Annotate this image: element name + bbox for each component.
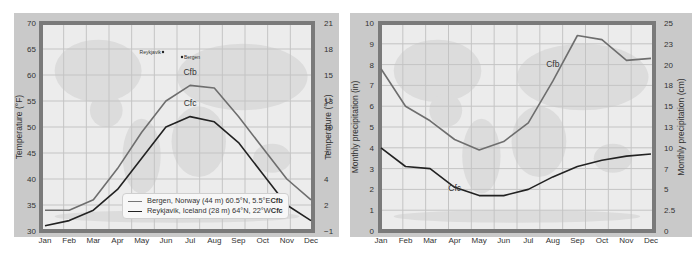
precip-ytick-right: 10 — [664, 144, 673, 153]
precip-ylabel-left: Monthly precipitation (in) — [350, 81, 360, 174]
temp-ytick-left: 45 — [27, 149, 36, 158]
precip-ytick-right: 2.5 — [664, 206, 676, 215]
precip-map-landmass — [462, 119, 500, 194]
temp-ytick-right: 21 — [324, 19, 333, 28]
climate-figure: 303540455055606570−12471013151821JanFebM… — [0, 0, 694, 263]
legend-item-bergen: Bergen, Norway (44 m) 60.5°N, 5.5°E Cfb — [128, 196, 283, 206]
precip-map-landmass — [512, 106, 567, 177]
temp-xtick: Jun — [159, 236, 172, 245]
precip-ytick-left: 10 — [365, 19, 374, 28]
temp-map-landmass — [90, 94, 123, 127]
reykjavik-marker — [162, 51, 164, 53]
precip-ytick-left: 5 — [370, 123, 375, 132]
temp-ytick-right: −1 — [324, 227, 334, 236]
temp-xtick: May — [134, 236, 149, 245]
precip-ytick-left: 8 — [370, 61, 375, 70]
temp-ytick-left: 35 — [27, 201, 36, 210]
temp-xtick: Jan — [39, 236, 52, 245]
temp-xtick: Aug — [207, 236, 221, 245]
precip-ytick-left: 1 — [370, 206, 375, 215]
precip-map-landmass — [517, 44, 649, 111]
precip-xtick: Jan — [375, 236, 388, 245]
temp-ylabel-left: Temperature (°F) — [14, 95, 24, 160]
precip-xtick: Feb — [399, 236, 413, 245]
precip-ytick-right: 23 — [664, 40, 673, 49]
precip-ytick-right: 25 — [664, 19, 673, 28]
precip-ytick-left: 6 — [370, 102, 375, 111]
precip-xtick: Mar — [423, 236, 437, 245]
precip-ylabel-right: Monthly precipitation (cm) — [676, 78, 686, 175]
temp-ytick-right: 4 — [324, 175, 329, 184]
temp-xtick: Sep — [231, 236, 246, 245]
temp-xtick: Nov — [280, 236, 294, 245]
temp-ytick-left: 30 — [27, 227, 36, 236]
precip-ytick-right: 20 — [664, 61, 673, 70]
precip-ytick-right: 7 — [664, 165, 669, 174]
precip-ytick-left: 7 — [370, 81, 375, 90]
temp-ytick-right: 15 — [324, 71, 333, 80]
precip-xtick: Oct — [596, 236, 609, 245]
precip-xtick: Sep — [570, 236, 585, 245]
precip-ytick-right: 18 — [664, 81, 673, 90]
precip-map-landmass — [394, 40, 482, 102]
precip-annotation-cfc: Cfc — [448, 183, 462, 193]
temp-ytick-left: 70 — [27, 19, 36, 28]
legend-item-reykjavik: Reykjavik, Iceland (28 m) 64°N, 22°W Cfc — [128, 206, 283, 216]
temp-ylabel-right: Temperature (°C) — [323, 94, 333, 159]
temp-xtick: Dec — [304, 236, 318, 245]
legend-code-reykjavik: Cfc — [271, 206, 283, 216]
precip-xtick: Jul — [523, 236, 533, 245]
temp-ytick-right: 18 — [324, 45, 333, 54]
legend-label-reykjavik: Reykjavik, Iceland (28 m) 64°N, 22°W — [147, 206, 271, 216]
legend-code-bergen: Cfb — [270, 196, 282, 206]
bergen-marker — [181, 56, 183, 58]
temp-xtick: Jul — [185, 236, 195, 245]
temp-xtick: Apr — [111, 236, 124, 245]
bergen-map-label: Bergen — [184, 54, 200, 60]
precip-ytick-left: 2 — [370, 185, 375, 194]
temp-xtick: Oct — [256, 236, 269, 245]
legend-swatch-reykjavik — [128, 211, 142, 212]
temp-annotation-cfc: Cfc — [184, 98, 198, 108]
precip-xtick: Aug — [546, 236, 560, 245]
temp-annotation-cfb: Cfb — [183, 67, 197, 77]
precip-annotation-cfb: Cfb — [546, 59, 560, 69]
reykjavik-map-label: Reykjavik — [140, 49, 162, 55]
precip-ytick-right: 13 — [664, 123, 673, 132]
precip-xtick: May — [472, 236, 487, 245]
temperature-legend: Bergen, Norway (44 m) 60.5°N, 5.5°E Cfb … — [122, 193, 289, 219]
temp-ytick-left: 40 — [27, 175, 36, 184]
precip-ytick-left: 3 — [370, 165, 375, 174]
temp-ytick-left: 60 — [27, 71, 36, 80]
precip-ytick-left: 4 — [370, 144, 375, 153]
temp-ytick-right: 2 — [324, 201, 329, 210]
temperature-chart: 303540455055606570−12471013151821JanFebM… — [0, 0, 694, 263]
temp-xtick: Feb — [62, 236, 76, 245]
legend-swatch-bergen — [128, 201, 142, 202]
precip-xtick: Nov — [619, 236, 633, 245]
precip-ytick-right: 5 — [664, 185, 669, 194]
precip-map-landmass — [429, 94, 462, 127]
temp-map-landmass — [123, 119, 161, 194]
temp-map-landmass — [172, 106, 226, 177]
precip-ytick-right: 15 — [664, 102, 673, 111]
temp-ytick-left: 65 — [27, 45, 36, 54]
legend-label-bergen: Bergen, Norway (44 m) 60.5°N, 5.5°E — [147, 196, 270, 206]
precip-ytick-left: 0 — [370, 227, 375, 236]
temp-ytick-left: 50 — [27, 123, 36, 132]
precip-xtick: Jun — [497, 236, 510, 245]
temp-xtick: Mar — [86, 236, 100, 245]
precip-ytick-left: 9 — [370, 40, 375, 49]
precip-ytick-right: 0 — [664, 227, 669, 236]
temp-ytick-left: 55 — [27, 97, 36, 106]
precip-xtick: Apr — [448, 236, 461, 245]
precip-xtick: Dec — [644, 236, 658, 245]
